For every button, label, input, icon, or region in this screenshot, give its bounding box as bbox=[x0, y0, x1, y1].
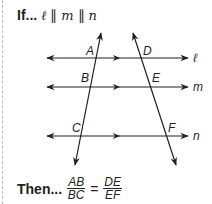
point-label-c: C bbox=[72, 121, 81, 135]
conclusion-label: Then... bbox=[17, 181, 62, 197]
fraction-ab-bc: AB BC bbox=[67, 176, 85, 201]
point-label-b: B bbox=[81, 71, 89, 85]
line-m bbox=[47, 84, 188, 90]
point-label-e: E bbox=[152, 71, 161, 85]
line-label-n: n bbox=[193, 129, 200, 143]
line-l bbox=[47, 55, 188, 61]
point-label-d: D bbox=[143, 44, 152, 58]
fraction-de-ef: DE EF bbox=[103, 176, 122, 201]
transversal-right bbox=[133, 33, 176, 165]
point-label-a: A bbox=[85, 44, 94, 58]
fraction-denominator: BC bbox=[68, 189, 85, 201]
equals-sign: = bbox=[90, 181, 98, 197]
fraction-denominator: EF bbox=[105, 189, 120, 201]
line-label-m: m bbox=[193, 80, 203, 94]
parallel-lines-diagram: A D B E C F ℓ m n bbox=[0, 0, 212, 204]
line-label-l: ℓ bbox=[193, 51, 198, 65]
point-label-f: F bbox=[168, 121, 176, 135]
conclusion-statement: Then... AB BC = DE EF bbox=[17, 176, 124, 201]
